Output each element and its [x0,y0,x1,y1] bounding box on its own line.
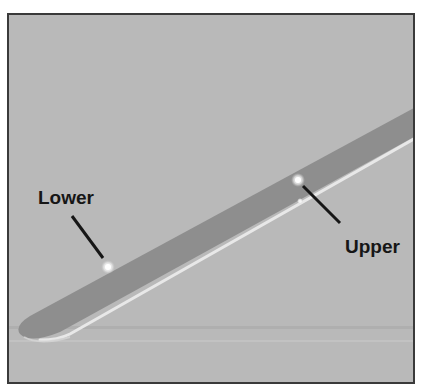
lower-label: Lower [38,188,94,207]
upper-label: Upper [345,237,400,256]
